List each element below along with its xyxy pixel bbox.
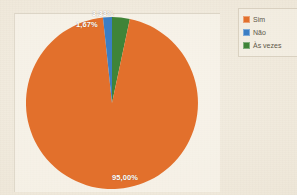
- slice-label-asvezes: 3,33%: [92, 9, 114, 18]
- legend-label-sim: Sim: [253, 15, 265, 24]
- pie-chart: [25, 16, 199, 190]
- legend-item-sim[interactable]: Sim: [243, 14, 297, 25]
- legend-label-asvezes: Às vezes: [253, 41, 281, 50]
- legend-swatch-sim: [243, 16, 250, 23]
- legend-label-nao: Não: [253, 28, 266, 37]
- chart-legend: Sim Não Às vezes: [238, 8, 297, 57]
- legend-item-nao[interactable]: Não: [243, 27, 297, 38]
- legend-item-asvezes[interactable]: Às vezes: [243, 40, 297, 51]
- legend-swatch-nao: [243, 29, 250, 36]
- chart-page: 3,33% 1,67% 95,00% Sim Não Às vezes: [0, 0, 297, 195]
- slice-label-sim: 95,00%: [112, 173, 138, 182]
- pie-chart-svg: [25, 16, 199, 190]
- slice-label-nao: 1,67%: [76, 20, 98, 29]
- legend-swatch-asvezes: [243, 42, 250, 49]
